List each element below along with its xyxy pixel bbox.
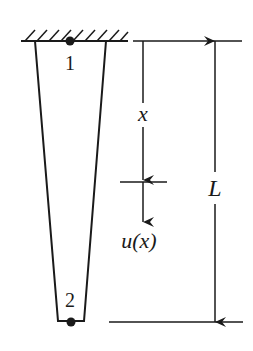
node-1-dot <box>66 37 75 46</box>
fixed-support <box>21 30 128 41</box>
displacement-label: u(x) <box>121 228 156 253</box>
x-label: x <box>137 101 148 126</box>
tapered-bar <box>35 41 106 321</box>
node-2-label: 2 <box>65 289 75 311</box>
support-hatching <box>25 30 128 41</box>
tapered-bar-diagram: 1 2 x u(x) L <box>0 0 253 351</box>
node-2-dot <box>67 318 76 327</box>
length-label: L <box>207 175 221 201</box>
node-1-label: 1 <box>65 52 75 74</box>
